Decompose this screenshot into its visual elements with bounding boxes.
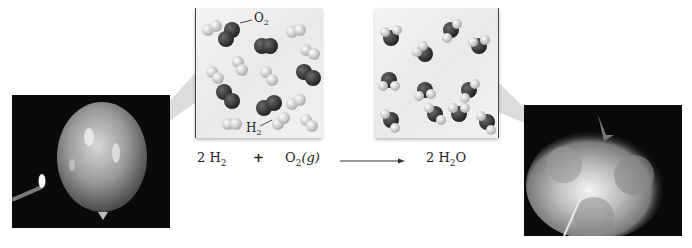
h2o-molecule xyxy=(380,25,402,46)
h2-molecule xyxy=(260,66,278,86)
reactant-o2: O2(g) xyxy=(285,150,320,168)
reactant-molecules-panel: O2 H2 xyxy=(195,8,322,138)
h2o-molecule xyxy=(380,109,400,133)
balloon-photo xyxy=(12,95,170,228)
reaction-arrow-icon xyxy=(340,157,406,165)
o2-molecule xyxy=(296,64,321,86)
h2o-molecule xyxy=(424,103,446,125)
explosion-photo xyxy=(524,105,682,236)
h2o-molecule xyxy=(476,111,496,135)
o2-molecule xyxy=(216,84,240,109)
water-molecules xyxy=(375,8,498,138)
h2o-molecule xyxy=(460,79,480,103)
h2o-molecule xyxy=(378,72,400,91)
h2-molecule xyxy=(286,94,306,110)
h2-molecule xyxy=(206,66,224,84)
h2-molecule xyxy=(286,24,306,38)
product-h2o: 2 H2O xyxy=(426,150,466,168)
h2-molecule xyxy=(272,112,290,130)
h2o-molecule xyxy=(442,19,462,43)
plus-sign: + xyxy=(253,150,264,165)
h2-molecule xyxy=(202,20,222,36)
explosion-image xyxy=(524,105,682,236)
h2o-molecule xyxy=(414,82,436,101)
h2o-molecule xyxy=(448,103,470,122)
h2o-molecule xyxy=(468,35,490,54)
h2-molecule xyxy=(300,114,318,132)
h2-molecule xyxy=(300,44,320,60)
h2o-molecule xyxy=(412,41,433,62)
balloon-image xyxy=(12,95,170,228)
chemical-equation: 2 H2 + O2(g) 2 H2O xyxy=(197,150,497,170)
h2-label: H2 xyxy=(246,121,262,137)
h2-molecule xyxy=(232,56,248,76)
o2-molecule xyxy=(256,95,282,116)
reactant-h2: 2 H2 xyxy=(197,150,226,168)
product-molecules-panel xyxy=(375,8,499,138)
reactant-molecules xyxy=(196,8,322,138)
h2-molecule xyxy=(222,118,242,130)
o2-molecule xyxy=(254,38,278,54)
o2-label: O2 xyxy=(254,11,269,27)
